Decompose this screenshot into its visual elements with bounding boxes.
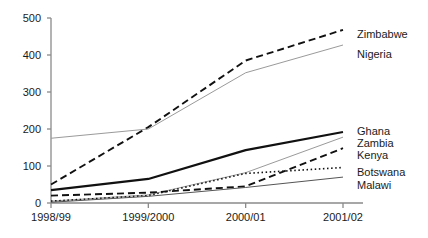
- series-label-malawi: Malawi: [357, 180, 391, 191]
- series-label-zimbabwe: Zimbabwe: [357, 29, 408, 40]
- line-chart: 0100200300400500 1998/991999/20002000/01…: [0, 0, 428, 238]
- x-tick-label: 2000/01: [201, 212, 291, 223]
- series-label-kenya: Kenya: [357, 150, 388, 161]
- series-label-nigeria: Nigeria: [357, 49, 392, 60]
- y-tick-label: 200: [11, 124, 41, 135]
- y-tick-label: 300: [11, 87, 41, 98]
- x-tick-label: 1998/99: [6, 212, 96, 223]
- series-line-kenya: [51, 148, 343, 195]
- series-label-ghana: Ghana: [357, 126, 390, 137]
- y-tick-label: 500: [11, 13, 41, 24]
- series-line-nigeria: [51, 45, 343, 138]
- series-label-zambia: Zambia: [357, 138, 394, 149]
- x-tick-label: 2001/02: [298, 212, 388, 223]
- x-tick-label: 1999/2000: [103, 212, 193, 223]
- y-tick-label: 100: [11, 161, 41, 172]
- y-tick-label: 400: [11, 50, 41, 61]
- series-label-botswana: Botswana: [357, 167, 405, 178]
- series-line-zimbabwe: [51, 30, 343, 185]
- y-tick-label: 0: [11, 198, 41, 209]
